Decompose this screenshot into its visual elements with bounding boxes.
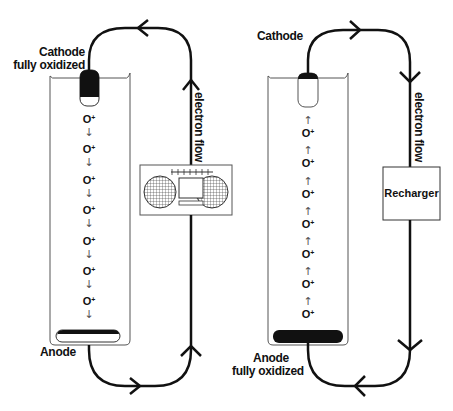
boombox-icon xyxy=(140,165,232,215)
anode-left xyxy=(56,330,120,342)
battery-diagram: Cathode fully oxidized Anode electron fl… xyxy=(0,0,453,411)
ion-label: O+ xyxy=(293,248,323,260)
electron-flow-label-left: electron flow xyxy=(192,92,206,162)
ion-arrow-down: ↓ xyxy=(74,218,104,229)
ion-label: O+ xyxy=(293,278,323,290)
ion-arrow-down: ↓ xyxy=(74,157,104,168)
ion-arrow-up: ↑ xyxy=(293,115,323,126)
ion-arrow-up: ↑ xyxy=(293,296,323,307)
ion-label: O+ xyxy=(74,204,104,216)
ion-label: O+ xyxy=(293,308,323,320)
recharger-label: Recharger xyxy=(383,187,440,199)
ion-arrow-down: ↓ xyxy=(74,127,104,138)
anode-label-right-line2: fully oxidized xyxy=(232,365,310,378)
ion-label: O+ xyxy=(74,295,104,307)
ion-arrow-up: ↑ xyxy=(293,176,323,187)
electron-flow-label-right: electron flow xyxy=(412,92,426,162)
ion-arrow-down: ↓ xyxy=(74,249,104,260)
anode-label-left: Anode xyxy=(40,346,76,359)
cathode-label-right: Cathode xyxy=(257,30,303,43)
cathode-left xyxy=(80,70,99,106)
anode-label-right: Anode fully oxidized xyxy=(232,352,310,378)
anode-right xyxy=(273,330,343,343)
ion-arrow-up: ↑ xyxy=(293,206,323,217)
ion-label: O+ xyxy=(74,113,104,125)
ion-label: O+ xyxy=(293,127,323,139)
ion-label: O+ xyxy=(74,235,104,247)
ion-label: O+ xyxy=(293,157,323,169)
ion-label: O+ xyxy=(74,265,104,277)
cathode-label-left: Cathode fully oxidized xyxy=(10,46,85,72)
cathode-label-left-line2: fully oxidized xyxy=(10,59,85,72)
ion-label: O+ xyxy=(293,218,323,230)
ion-label: O+ xyxy=(74,174,104,186)
ion-arrow-down: ↓ xyxy=(74,279,104,290)
ion-arrow-up: ↑ xyxy=(293,236,323,247)
ion-arrow-down: ↓ xyxy=(74,188,104,199)
cathode-right xyxy=(298,73,318,107)
ion-label: O+ xyxy=(74,143,104,155)
ion-arrow-up: ↑ xyxy=(293,266,323,277)
ion-arrow-up: ↑ xyxy=(293,145,323,156)
ion-label: O+ xyxy=(293,188,323,200)
ion-arrow-down: ↓ xyxy=(74,309,104,320)
